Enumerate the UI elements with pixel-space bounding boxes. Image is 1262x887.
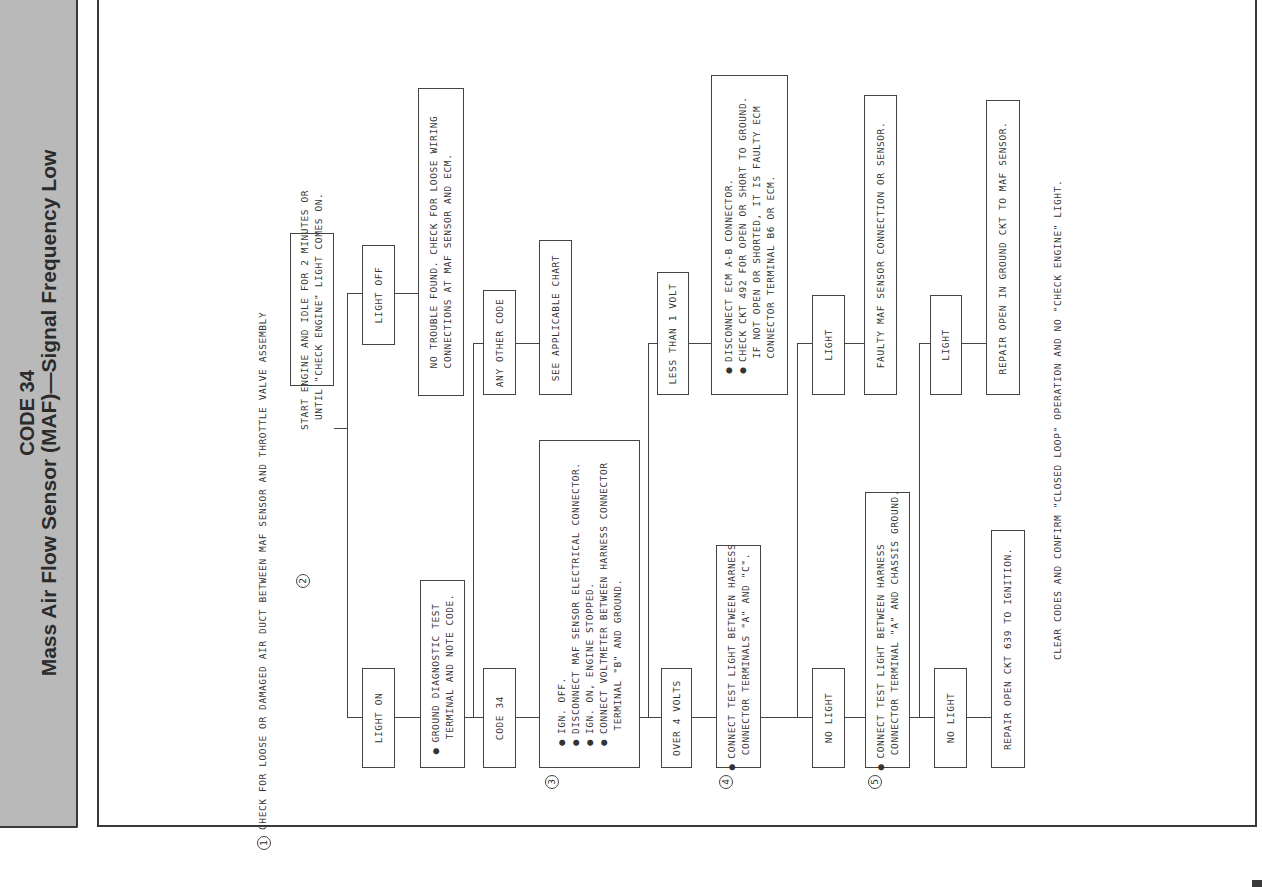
connector <box>967 717 991 718</box>
title-block: CODE 34 Mass Air Flow Sensor (MAF)—Signa… <box>16 3 60 823</box>
connector <box>910 717 934 718</box>
connector <box>516 343 539 344</box>
step-4-box: CONNECT TEST LIGHT BETWEEN HARNESS CONNE… <box>716 545 761 768</box>
step-2-box: START ENGINE AND IDLE FOR 2 MINUTES OR U… <box>290 233 334 386</box>
title-sidebar: CODE 34 Mass Air Flow Sensor (MAF)—Signa… <box>0 0 78 828</box>
connector <box>395 717 420 718</box>
ground-diagnostic-box: GROUND DIAGNOSTIC TEST TERMINAL AND NOTE… <box>420 580 465 768</box>
connector <box>919 343 920 718</box>
step-2-marker: 2 <box>296 574 310 588</box>
less-than-1-volt-box: LESS THAN 1 VOLT <box>657 272 689 395</box>
step-5-box: CONNECT TEST LIGHT BETWEEN HARNESS CONNE… <box>865 492 910 768</box>
chart-subtitle: Mass Air Flow Sensor (MAF)—Signal Freque… <box>38 3 60 823</box>
light-off-box: LIGHT OFF <box>362 245 395 345</box>
step-3-marker: 3 <box>545 775 559 789</box>
see-applicable-chart-box: SEE APPLICABLE CHART <box>539 240 572 395</box>
step-3-box: IGN. OFF. DISCONNECT MAF SENSOR ELECTRIC… <box>539 440 640 768</box>
no-trouble-box: NO TROUBLE FOUND. CHECK FOR LOOSE WIRING… <box>418 88 464 396</box>
connector <box>845 343 864 344</box>
corner-mark <box>1252 880 1262 887</box>
step-1-marker: 1 <box>257 836 271 850</box>
connector <box>640 717 661 718</box>
step-5-no-light-box: NO LIGHT <box>934 668 967 768</box>
step-4-no-light-box: NO LIGHT <box>812 668 845 768</box>
connector <box>919 343 930 344</box>
connector <box>347 717 362 718</box>
connector <box>347 293 362 294</box>
connector <box>689 343 711 344</box>
connector <box>845 717 865 718</box>
repair-ckt-639-box: REPAIR OPEN CKT 639 TO IGNITION. <box>991 530 1025 768</box>
light-on-box: LIGHT ON <box>362 668 395 768</box>
code-34-box: CODE 34 <box>483 668 516 768</box>
step-5-marker: 5 <box>868 775 882 789</box>
connector <box>395 293 418 294</box>
connector <box>465 717 483 718</box>
step-5-light-box: LIGHT <box>930 295 962 395</box>
over-4-volts-box: OVER 4 VOLTS <box>661 668 692 768</box>
footer-instruction: CLEAR CODES AND CONFIRM "CLOSED LOOP" OP… <box>1052 180 1063 660</box>
step-1-text: CHECK FOR LOOSE OR DAMAGED AIR DUCT BETW… <box>257 312 268 830</box>
connector <box>692 717 716 718</box>
connector <box>797 343 812 344</box>
connector <box>473 343 474 718</box>
connector <box>334 428 348 429</box>
connector <box>347 293 348 718</box>
code-title: CODE 34 <box>16 3 38 823</box>
repair-ground-ckt-box: REPAIR OPEN IN GROUND CKT TO MAF SENSOR. <box>986 100 1020 395</box>
connector <box>962 343 986 344</box>
connector <box>648 343 657 344</box>
connector <box>473 343 483 344</box>
connector <box>648 343 649 718</box>
step-4-light-box: LIGHT <box>812 295 845 395</box>
connector <box>516 717 539 718</box>
step-4-marker: 4 <box>719 775 733 789</box>
any-other-code-box: ANY OTHER CODE <box>483 290 516 395</box>
connector <box>761 717 812 718</box>
disconnect-ecm-box: DISCONNECT ECM A-B CONNECTOR. CHECK CKT … <box>711 75 788 395</box>
connector <box>797 343 798 718</box>
faulty-maf-box: FAULTY MAF SENSOR CONNECTION OR SENSOR. <box>864 95 897 395</box>
